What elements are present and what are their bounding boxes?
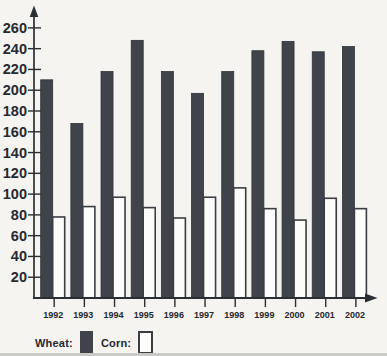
wheat-bar-1999: [252, 51, 264, 298]
x-axis-year-label: 2002: [345, 310, 365, 320]
y-axis-tick-label: 260: [3, 20, 27, 36]
x-axis-year-label: 1999: [254, 310, 274, 320]
x-axis-year-label: 1995: [134, 310, 154, 320]
y-axis-tick-label: 160: [3, 124, 27, 140]
x-axis-year-label: 1998: [224, 310, 244, 320]
corn-bar-2000: [294, 220, 306, 298]
y-axis-tick-label: 180: [3, 103, 27, 119]
x-axis-year-label: 1997: [194, 310, 214, 320]
wheat-bar-1998: [222, 72, 234, 298]
wheat-bar-1996: [161, 72, 173, 298]
y-axis-tick-label: 120: [3, 165, 27, 181]
wheat-bar-2001: [312, 52, 324, 298]
x-axis-year-label: 2000: [285, 310, 305, 320]
y-axis-tick-label: 200: [3, 82, 27, 98]
wheat-bar-1994: [101, 72, 113, 298]
y-axis-arrow-icon: [30, 6, 39, 18]
wheat-bar-1992: [41, 80, 53, 298]
legend-wheat-label: Wheat:: [35, 337, 73, 349]
corn-bar-1993: [83, 207, 95, 298]
x-axis-year-label: 1992: [43, 310, 63, 320]
corn-bar-2001: [324, 198, 336, 298]
y-axis-tick-label: 240: [3, 41, 27, 57]
x-axis-year-label: 1996: [164, 310, 184, 320]
x-axis-year-label: 1994: [104, 310, 124, 320]
wheat-bar-1993: [71, 123, 83, 298]
corn-bar-1994: [113, 197, 125, 298]
y-axis-tick-label: 20: [11, 269, 27, 285]
y-axis-tick-label: 220: [3, 61, 27, 77]
corn-bar-1997: [204, 197, 216, 298]
corn-bar-2002: [354, 209, 366, 298]
x-axis-year-label: 1993: [73, 310, 93, 320]
y-axis-tick-label: 80: [11, 207, 27, 223]
corn-bar-1996: [173, 218, 185, 298]
corn-bar-1995: [143, 208, 155, 298]
legend-wheat-swatch: [80, 331, 93, 354]
wheat-bar-1997: [192, 93, 204, 298]
y-axis-tick-label: 40: [11, 248, 27, 264]
x-axis-year-label: 2001: [315, 310, 335, 320]
corn-bar-1992: [53, 217, 65, 298]
wheat-bar-1995: [131, 40, 143, 298]
wheat-bar-2000: [282, 41, 294, 298]
legend-corn-swatch: [138, 331, 153, 354]
chart-legend: Wheat: Corn:: [35, 330, 153, 355]
x-axis-arrow-icon: [365, 294, 378, 303]
wheat-bar-2002: [342, 47, 354, 298]
corn-bar-1999: [264, 209, 276, 298]
bar-chart-canvas: 2040608010012014016018020022024026019921…: [0, 0, 387, 356]
corn-bar-1998: [234, 188, 246, 298]
bar-chart-figure: 2040608010012014016018020022024026019921…: [0, 0, 387, 356]
legend-corn-label: Corn:: [101, 337, 131, 349]
y-axis-tick-label: 100: [3, 186, 27, 202]
y-axis-tick-label: 140: [3, 145, 27, 161]
y-axis-tick-label: 60: [11, 228, 27, 244]
